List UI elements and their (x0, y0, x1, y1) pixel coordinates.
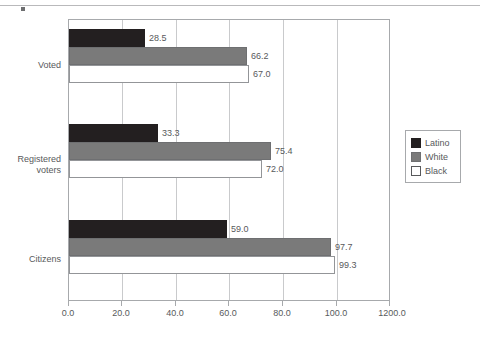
xtick-label-0: 0.0 (62, 308, 75, 318)
bar-value-citizens-latino: 59.0 (227, 224, 249, 234)
bar-registered-black[interactable] (69, 160, 262, 178)
xtick-label-40: 40.0 (166, 308, 184, 318)
bar-value-voted-latino: 28.5 (145, 33, 167, 43)
legend-swatch-white-icon (411, 152, 421, 162)
legend-swatch-black-icon (411, 166, 421, 176)
axis-label-registered-voters: Registered voters (17, 154, 61, 176)
bar-registered-latino[interactable] (69, 124, 158, 142)
page-header-rule (0, 5, 480, 6)
bar-value-registered-latino: 33.3 (158, 128, 180, 138)
bar-voted-black[interactable] (69, 65, 249, 83)
bar-registered-white[interactable] (69, 142, 271, 160)
bar-value-registered-black: 72.0 (262, 164, 284, 174)
legend-label-white: White (425, 152, 448, 162)
bar-value-registered-white: 75.4 (271, 146, 293, 156)
xtick-mark-40 (175, 301, 176, 306)
legend-swatch-latino-icon (411, 138, 421, 148)
xtick-mark-60 (228, 301, 229, 306)
bar-citizens-black[interactable] (69, 256, 335, 274)
chart-plot-frame: 28.5 66.2 67.0 33.3 75.4 72.0 (68, 19, 390, 301)
bar-citizens-latino[interactable] (69, 220, 227, 238)
bar-value-voted-white: 66.2 (247, 51, 269, 61)
xtick-label-20: 20.0 (112, 308, 130, 318)
xtick-label-80: 80.0 (273, 308, 291, 318)
xtick-label-120: 1200.0 (378, 308, 406, 318)
bar-voted-white[interactable] (69, 47, 247, 65)
xtick-mark-20 (121, 301, 122, 306)
axis-label-voted: Voted (38, 60, 61, 71)
xtick-mark-100 (336, 301, 337, 306)
header-tick-mark (21, 7, 25, 11)
axis-label-citizens: Citizens (29, 254, 61, 265)
chart-legend: Latino White Black (405, 130, 461, 183)
bars-plot-area: 28.5 66.2 67.0 33.3 75.4 72.0 (69, 20, 389, 300)
xtick-mark-120 (389, 301, 390, 306)
xtick-label-100: 100.0 (325, 308, 348, 318)
bar-citizens-white[interactable] (69, 238, 331, 256)
bar-value-citizens-black: 99.3 (335, 260, 357, 270)
legend-item-latino[interactable]: Latino (411, 136, 456, 149)
legend-label-black: Black (425, 166, 447, 176)
xtick-label-60: 60.0 (219, 308, 237, 318)
xtick-mark-0 (68, 301, 69, 306)
bar-value-citizens-white: 97.7 (331, 242, 353, 252)
bar-voted-latino[interactable] (69, 29, 145, 47)
legend-label-latino: Latino (425, 138, 450, 148)
legend-item-white[interactable]: White (411, 150, 456, 163)
xtick-mark-80 (282, 301, 283, 306)
legend-item-black[interactable]: Black (411, 164, 456, 177)
bar-value-voted-black: 67.0 (249, 69, 271, 79)
